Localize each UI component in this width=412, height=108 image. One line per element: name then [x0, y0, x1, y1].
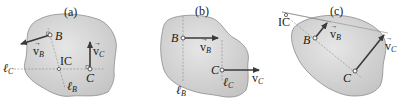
svg-text:→: → — [253, 66, 260, 74]
label-IC-c: IC — [278, 15, 290, 29]
caption-b: (b) — [195, 4, 209, 18]
point-B-b — [181, 36, 185, 40]
label-C-b: C — [211, 63, 220, 77]
rigid-body-c — [291, 15, 385, 96]
point-B-c — [313, 36, 317, 40]
label-C-c: C — [343, 71, 352, 85]
point-C-c — [353, 69, 357, 73]
label-B-b: B — [171, 31, 179, 45]
svg-text:→: → — [201, 35, 208, 43]
label-C-a: C — [86, 71, 95, 85]
label-IC-a: IC — [60, 54, 72, 68]
point-C-b — [220, 68, 224, 72]
panel-a: (a) B IC C vB → vC → ℓC ℓB — [3, 5, 116, 96]
caption-a: (a) — [64, 5, 77, 19]
svg-text:→: → — [34, 39, 41, 47]
panel-c: (c) IC B C vB → vC → — [278, 4, 397, 96]
rigid-body-ic-diagram: (a) B IC C vB → vC → ℓC ℓB (b) B C vB → … — [0, 0, 412, 108]
caption-c: (c) — [330, 4, 343, 18]
point-B-a — [48, 33, 52, 37]
panel-b: (b) B C vB → vC → ℓB ℓC — [161, 4, 264, 98]
rigid-body-b — [161, 15, 249, 97]
label-lC-a: ℓC — [3, 61, 14, 76]
label-B-c: B — [303, 33, 311, 47]
svg-text:→: → — [94, 39, 101, 47]
svg-text:→: → — [331, 22, 338, 30]
label-B-a: B — [55, 29, 63, 43]
svg-text:→: → — [386, 34, 393, 42]
